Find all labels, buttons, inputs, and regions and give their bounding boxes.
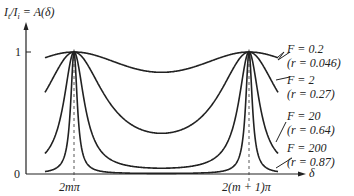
x-axis-arrow-icon [298, 172, 306, 177]
y-axis-label: It/Ii = A(δ) [4, 6, 55, 21]
legend-r087: (r = 0.87) [287, 156, 335, 168]
legend-f200: F = 200 [287, 142, 326, 154]
curve-series-2 [45, 52, 278, 168]
y-axis-arrow-icon [24, 22, 29, 30]
legend-f2: F = 2 [287, 74, 314, 86]
y-tick-label-1: 1 [15, 46, 21, 58]
leader-f20 [276, 122, 286, 142]
legend-r0046: (r = 0.046) [287, 57, 341, 69]
legend-r027: (r = 0.27) [287, 88, 335, 100]
curve-series-1 [45, 52, 278, 133]
y-tick-label-0: 0 [14, 168, 20, 180]
legend-r064: (r = 0.64) [287, 124, 335, 136]
x-tick-label-1: 2mπ [59, 181, 80, 193]
legend-f02: F = 0.2 [287, 43, 323, 55]
legend-f20: F = 20 [287, 110, 320, 122]
x-tick-label-2: 2(m + 1)π [222, 181, 271, 193]
